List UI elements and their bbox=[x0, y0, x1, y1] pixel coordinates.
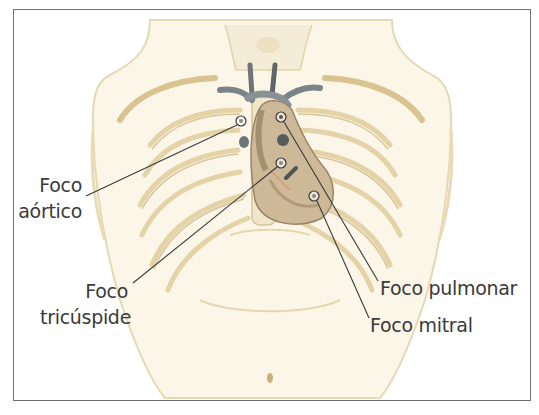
marker-tricuspid-icon bbox=[276, 158, 286, 168]
label-mitral-text: Foco mitral bbox=[370, 312, 473, 338]
label-foco-aortico: Foco aórtico bbox=[18, 172, 82, 224]
marker-aortic-icon bbox=[236, 116, 246, 126]
label-foco-tricuspide: Foco tricúspide bbox=[40, 278, 128, 330]
label-tricuspid-line1: Foco bbox=[40, 278, 128, 304]
marker-pulmonary-icon bbox=[276, 112, 286, 122]
label-foco-mitral: Foco mitral bbox=[370, 312, 473, 338]
label-pulmonary-text: Foco pulmonar bbox=[380, 275, 517, 301]
label-aortic-line1: Foco bbox=[18, 172, 82, 198]
neck bbox=[225, 25, 312, 70]
label-aortic-line2: aórtico bbox=[18, 198, 82, 224]
label-foco-pulmonar: Foco pulmonar bbox=[380, 275, 517, 301]
label-tricuspid-line2: tricúspide bbox=[40, 304, 128, 330]
marker-mitral-icon bbox=[309, 191, 319, 201]
